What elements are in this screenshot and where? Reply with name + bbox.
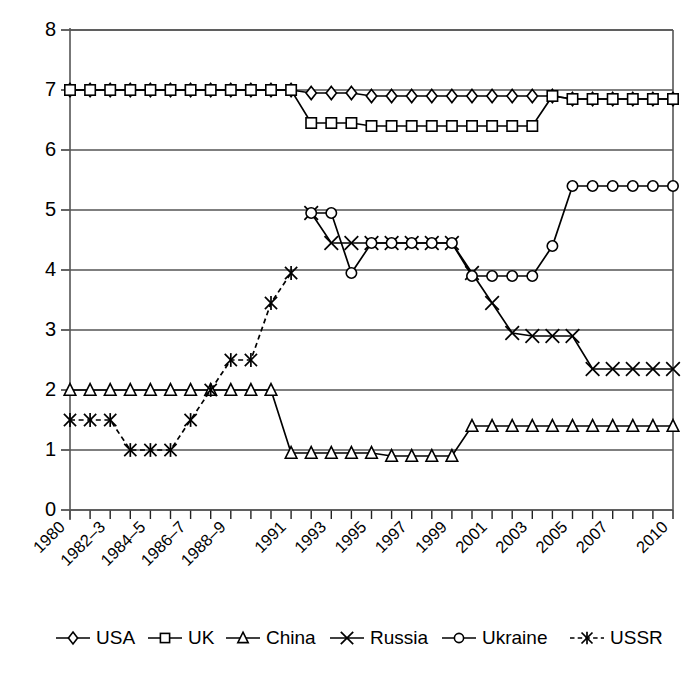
y-axis-tick-label: 2 <box>45 378 56 400</box>
y-axis-tick-label: 4 <box>45 258 56 280</box>
data-point-marker-circle <box>608 181 618 191</box>
data-point-marker-diamond <box>407 89 417 102</box>
x-axis-tick-label: 1988–9 <box>177 517 229 569</box>
data-point-marker-square <box>487 121 497 131</box>
data-point-marker-square <box>286 85 296 95</box>
x-axis-tick-label: 2001 <box>452 517 491 556</box>
data-point-marker-square <box>306 118 316 128</box>
chart-canvas: 012345678 19801982–31984–51986–71988–919… <box>0 0 696 673</box>
y-axis-tick-label: 3 <box>45 318 56 340</box>
x-axis-tick-label: 1999 <box>411 517 450 556</box>
series-russia <box>304 206 679 376</box>
data-point-marker-square <box>65 85 75 95</box>
data-point-marker-diamond <box>346 86 356 99</box>
data-point-marker-circle <box>454 633 463 642</box>
data-point-marker-square <box>407 121 417 131</box>
data-point-marker-square <box>266 85 276 95</box>
data-point-marker-square <box>386 121 396 131</box>
data-point-marker-square <box>206 85 216 95</box>
data-point-marker-circle <box>366 238 376 248</box>
data-point-marker-circle <box>447 238 457 248</box>
data-point-marker-square <box>366 121 376 131</box>
y-axis-tick-label: 1 <box>45 438 56 460</box>
data-point-marker-square <box>447 121 457 131</box>
legend-label: Ukraine <box>482 627 547 648</box>
legend-label: USA <box>96 627 135 648</box>
data-point-marker-square <box>527 121 537 131</box>
legend-label: USSR <box>610 627 663 648</box>
legend-item-usa[interactable]: USA <box>56 627 135 648</box>
series-ussr <box>64 266 297 457</box>
data-point-marker-square <box>105 85 115 95</box>
y-axis-tick-label: 7 <box>45 78 56 100</box>
data-point-marker-diamond <box>386 89 396 102</box>
data-point-marker-diamond <box>467 89 477 102</box>
data-point-marker-square <box>125 85 135 95</box>
data-point-marker-square <box>547 91 557 101</box>
data-point-marker-square <box>668 94 678 104</box>
x-axis-tick-label: 1995 <box>331 517 370 556</box>
data-point-marker-square <box>326 118 336 128</box>
data-point-marker-square <box>145 85 155 95</box>
series-polyline <box>70 273 291 450</box>
data-point-marker-diamond <box>447 89 457 102</box>
data-point-marker-diamond <box>527 89 537 102</box>
data-point-marker-square <box>226 85 236 95</box>
data-point-marker-circle <box>306 208 316 218</box>
data-point-marker-circle <box>668 181 678 191</box>
data-point-marker-square <box>507 121 517 131</box>
data-point-marker-square <box>628 94 638 104</box>
data-point-marker-circle <box>527 271 537 281</box>
data-point-marker-circle <box>346 268 356 278</box>
y-axis-tick-label: 6 <box>45 138 56 160</box>
data-point-marker-square <box>608 94 618 104</box>
data-point-marker-diamond <box>427 89 437 102</box>
data-point-marker-square <box>165 85 175 95</box>
legend-label: Russia <box>370 627 429 648</box>
data-point-marker-square <box>160 633 169 642</box>
data-point-marker-circle <box>547 241 557 251</box>
x-axis-ticks <box>70 510 673 519</box>
data-point-marker-diamond <box>507 89 517 102</box>
data-point-marker-circle <box>467 271 477 281</box>
data-point-marker-circle <box>628 181 638 191</box>
x-axis-tick-label: 2010 <box>632 517 671 556</box>
data-point-marker-circle <box>386 238 396 248</box>
x-axis-tick-label: 2005 <box>532 517 571 556</box>
y-axis-tick-label: 0 <box>45 498 56 520</box>
x-axis-tick-label: 2003 <box>492 517 531 556</box>
y-axis-tick-label: 8 <box>45 18 56 40</box>
data-point-marker-circle <box>648 181 658 191</box>
data-point-marker-diamond <box>366 89 376 102</box>
data-point-marker-diamond <box>68 632 77 644</box>
data-point-marker-square <box>587 94 597 104</box>
data-point-marker-circle <box>427 238 437 248</box>
legend-item-ussr[interactable]: USSR <box>570 627 663 648</box>
series-ukraine <box>306 181 678 281</box>
line-chart-figure: 012345678 19801982–31984–51986–71988–919… <box>0 0 696 673</box>
data-point-marker-diamond <box>306 86 316 99</box>
data-point-marker-circle <box>326 208 336 218</box>
series-polyline <box>311 186 673 276</box>
data-point-marker-square <box>246 85 256 95</box>
data-point-marker-diamond <box>487 89 497 102</box>
data-point-marker-square <box>648 94 658 104</box>
legend-item-china[interactable]: China <box>226 627 316 648</box>
data-point-marker-square <box>467 121 477 131</box>
legend-item-uk[interactable]: UK <box>148 627 215 648</box>
series-layer <box>64 83 680 461</box>
data-point-marker-diamond <box>326 86 336 99</box>
x-axis-labels: 19801982–31984–51986–71988–9199119931995… <box>29 517 671 569</box>
legend-item-ukraine[interactable]: Ukraine <box>442 627 547 648</box>
chart-legend: USAUKChinaRussiaUkraineUSSR <box>56 627 663 648</box>
x-axis-tick-label: 2007 <box>572 517 611 556</box>
legend-item-russia[interactable]: Russia <box>330 627 429 648</box>
x-axis-tick-label: 1991 <box>251 517 290 556</box>
y-axis-tick-label: 5 <box>45 198 56 220</box>
legend-label: UK <box>188 627 215 648</box>
data-point-marker-circle <box>487 271 497 281</box>
data-point-marker-circle <box>407 238 417 248</box>
series-usa <box>65 83 678 105</box>
data-point-marker-circle <box>567 181 577 191</box>
data-point-marker-circle <box>507 271 517 281</box>
